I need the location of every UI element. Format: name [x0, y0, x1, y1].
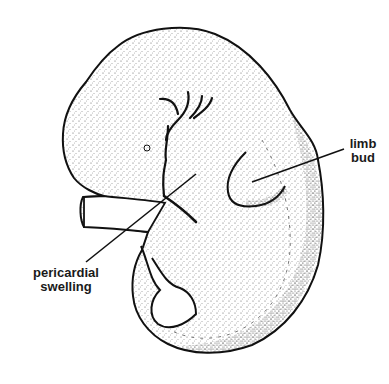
label-limb-bud: limb bud [340, 137, 386, 165]
label-pericardial-line2: swelling [18, 280, 114, 294]
label-pericardial-line1: pericardial [18, 266, 114, 280]
label-limb-bud-line2: bud [340, 151, 386, 165]
label-limb-bud-line1: limb [340, 137, 386, 151]
embryo-diagram: limb bud pericardial swelling [0, 0, 389, 384]
label-pericardial-swelling: pericardial swelling [18, 266, 114, 294]
embryo-illustration [0, 0, 389, 384]
